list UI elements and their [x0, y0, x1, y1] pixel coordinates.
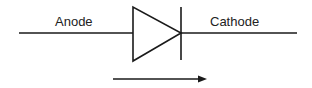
arrow-head-icon [198, 76, 207, 83]
current-arrow [113, 76, 207, 83]
diode-diagram: Anode Cathode [0, 0, 312, 88]
cathode-label: Cathode [210, 14, 259, 29]
anode-label: Anode [55, 14, 93, 29]
diode-triangle [133, 7, 181, 61]
